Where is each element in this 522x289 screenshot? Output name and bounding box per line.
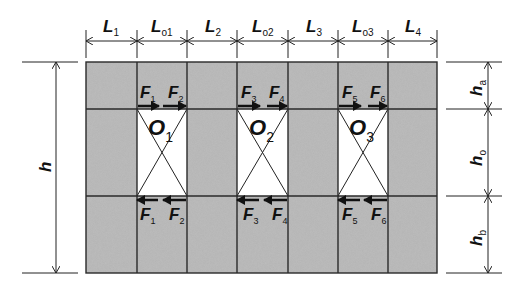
dim-L4: L4 [405,17,421,38]
dim-ho: ho [467,150,488,166]
dim-L1: L1 [103,17,119,38]
dim-L3: L3 [306,17,322,38]
dim-Lo1: Lo1 [151,17,173,38]
dim-h: h [36,162,55,172]
dim-L2: L2 [205,17,221,38]
dim-Lo3: Lo3 [352,17,374,38]
top-dimension-labels: L1 Lo1 L2 Lo2 L3 Lo3 L4 [103,17,421,38]
dim-ha: ha [467,80,488,96]
wall-diagram: L1 Lo1 L2 Lo2 L3 Lo3 L4 h ha ho hb O1 O2… [0,0,522,289]
dim-hb: hb [467,230,488,246]
dim-Lo2: Lo2 [252,17,274,38]
